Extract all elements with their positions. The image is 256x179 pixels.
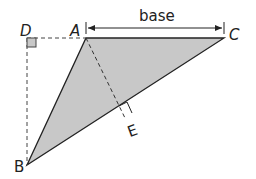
label-c: C [229,28,239,43]
triangle-diagram [0,0,256,179]
triangle-abc [27,38,224,165]
label-b: B [14,160,24,175]
arrowhead-right-icon [215,25,222,31]
label-d: D [20,24,32,39]
arrowhead-left-icon [88,25,95,31]
label-a: A [70,24,80,39]
label-base: base [139,9,175,24]
